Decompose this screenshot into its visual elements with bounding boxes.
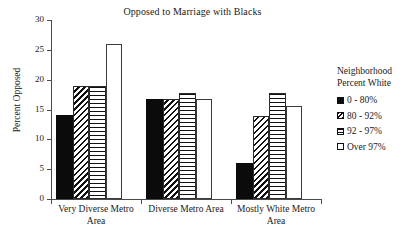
bar-g3-s2 (253, 116, 270, 199)
bar-g3-s1 (236, 163, 253, 199)
y-tick-label-10: 10 (24, 133, 44, 143)
y-tick-10: 10 (47, 139, 52, 140)
legend-swatch-icon-solid-black (337, 97, 344, 104)
bar-g1-s2 (73, 86, 90, 199)
bar-g2-s1 (146, 99, 163, 199)
legend-title-line-1: Neighborhood (337, 66, 419, 78)
legend-swatch-icon-horiz-stripe (337, 128, 344, 135)
legend-item-label: 92 - 97% (347, 126, 382, 136)
legend: Neighborhood Percent White 0 - 80%80 - 9… (337, 66, 419, 157)
y-tick-20: 20 (47, 80, 52, 81)
y-tick-label-30: 30 (24, 14, 44, 24)
bar-g1-s3 (89, 86, 106, 199)
y-tick-label-5: 5 (24, 163, 44, 173)
legend-title: Neighborhood Percent White (337, 66, 419, 89)
bar-g2-s3 (179, 93, 196, 199)
legend-item-label: Over 97% (347, 142, 386, 152)
x-category-label-line: Mostly White Metro (221, 203, 331, 215)
y-tick-30: 30 (47, 20, 52, 21)
y-tick-label-20: 20 (24, 74, 44, 84)
y-tick-5: 5 (47, 169, 52, 170)
legend-item-3[interactable]: 92 - 97% (337, 126, 419, 136)
legend-items: 0 - 80%80 - 92%92 - 97%Over 97% (337, 95, 419, 152)
bar-g2-s2 (163, 99, 180, 199)
bar-g1-s4 (106, 44, 123, 199)
y-axis-label: Percent Opposed (12, 45, 22, 155)
bar-g2-s4 (196, 99, 213, 199)
legend-item-label: 0 - 80% (347, 95, 377, 105)
y-tick-label-25: 25 (24, 44, 44, 54)
bar-g1-s1 (56, 115, 73, 199)
bar-g3-s3 (269, 93, 286, 199)
y-tick-label-0: 0 (24, 193, 44, 203)
legend-item-label: 80 - 92% (347, 111, 382, 121)
x-category-label-3: Mostly White MetroArea (221, 203, 331, 227)
y-tick-25: 25 (47, 50, 52, 51)
bar-chart: Opposed to Marriage with Blacks Percent … (0, 0, 420, 249)
plot-area: 051015202530 (51, 20, 321, 199)
x-axis-line (51, 199, 322, 200)
chart-title: Opposed to Marriage with Blacks (95, 6, 290, 17)
legend-swatch-icon-diag-hatch (337, 112, 344, 119)
legend-item-1[interactable]: 0 - 80% (337, 95, 419, 105)
x-category-label-line: Area (221, 215, 331, 227)
bar-g3-s4 (286, 106, 303, 199)
legend-title-line-2: Percent White (337, 78, 419, 90)
y-tick-label-15: 15 (24, 104, 44, 114)
x-category-label-line: Area (41, 215, 151, 227)
y-tick-15: 15 (47, 110, 52, 111)
legend-item-2[interactable]: 80 - 92% (337, 111, 419, 121)
legend-item-4[interactable]: Over 97% (337, 142, 419, 152)
legend-swatch-icon-open-white (337, 143, 344, 150)
